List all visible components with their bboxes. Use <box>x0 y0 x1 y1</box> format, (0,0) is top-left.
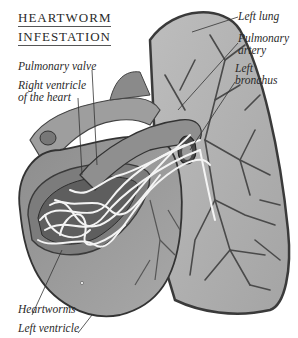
label-right-ventricle-line1: Right ventricle <box>18 79 86 91</box>
label-left-bronchus-line1: Left <box>235 62 253 74</box>
label-left-lung: Left lung <box>238 10 279 22</box>
label-right-ventricle-line2: of the heart <box>18 91 71 103</box>
label-pulmonary-artery-line1: Pulmonary <box>238 32 289 44</box>
label-left-bronchus-line2: bronchus <box>235 74 277 86</box>
title-line-1: HEARTWORM <box>18 10 111 27</box>
title-line-2: INFESTATION <box>18 29 111 46</box>
label-left-ventricle: Left ventricle <box>18 322 79 334</box>
label-pulmonary-valve: Pulmonary valve <box>18 60 96 72</box>
label-heartworms: Heartworms <box>18 303 76 315</box>
label-pulmonary-artery-line2: artery <box>238 44 266 56</box>
heartworm-diagram: HEARTWORM INFESTATION Left lung Pulmonar… <box>0 0 298 338</box>
